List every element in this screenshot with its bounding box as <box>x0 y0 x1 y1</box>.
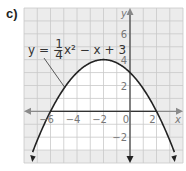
parabola-chart: −6−4−202642−2xyy = −14x² − x + 3 <box>0 0 186 171</box>
x-tick-label: −2 <box>92 114 107 125</box>
equation-rhs: x² − x + 3 <box>64 43 126 57</box>
x-tick-label: 0 <box>123 114 129 125</box>
x-tick-label: −6 <box>39 114 54 125</box>
x-axis-label: x <box>174 114 181 125</box>
equation-fraction-denominator: 4 <box>55 48 63 62</box>
y-tick-label: 2 <box>121 81 127 92</box>
y-tick-label: −2 <box>112 132 127 143</box>
y-axis-label: y <box>120 8 128 19</box>
y-tick-label: 6 <box>121 29 127 40</box>
x-tick-label: −4 <box>66 114 81 125</box>
x-tick-label: 2 <box>149 114 155 125</box>
